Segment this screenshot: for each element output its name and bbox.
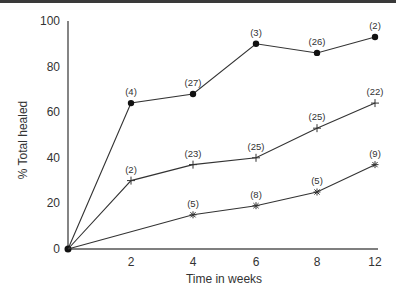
y-tick-label: 100 <box>40 14 60 28</box>
point-annotation: (22) <box>367 86 384 97</box>
y-tick-labels: 020406080100 <box>40 14 60 256</box>
point-annotation: (2) <box>125 164 137 175</box>
series-group: (4)(27)(3)(26)(2)(2)(23)(25)(25)(22)(5)(… <box>65 20 384 253</box>
series-line <box>68 165 375 249</box>
y-axis-label: % Total healed <box>16 101 30 180</box>
point-annotation: (26) <box>309 36 326 47</box>
point-annotation: (9) <box>369 148 381 159</box>
point-annotation: (25) <box>309 111 326 122</box>
line-chart: 020406080100 246812 % Total healed Time … <box>0 0 396 295</box>
y-tick-label: 40 <box>47 151 61 165</box>
plus-marker <box>189 161 197 169</box>
circle-marker <box>253 41 259 47</box>
plus-marker <box>371 99 379 107</box>
point-annotation: (27) <box>185 77 202 88</box>
x-tick-labels: 246812 <box>128 255 382 269</box>
point-annotation: (23) <box>185 148 202 159</box>
asterisk-marker <box>190 211 197 218</box>
y-tick-label: 60 <box>47 105 61 119</box>
circle-marker <box>190 91 196 97</box>
point-annotation: (4) <box>125 86 137 97</box>
x-tick-label: 4 <box>190 255 197 269</box>
series-circle: (4)(27)(3)(26)(2) <box>65 20 381 253</box>
series-plus: (2)(23)(25)(25)(22) <box>68 86 383 249</box>
y-tick-label: 20 <box>47 196 61 210</box>
x-tick-label: 12 <box>368 255 382 269</box>
plus-marker <box>252 154 260 162</box>
point-annotation: (25) <box>248 141 265 152</box>
point-annotation: (2) <box>369 20 381 31</box>
axes <box>68 21 378 249</box>
series-line <box>68 103 375 249</box>
x-axis-label: Time in weeks <box>186 272 262 286</box>
point-annotation: (8) <box>250 189 262 200</box>
point-annotation: (5) <box>311 175 323 186</box>
y-tick-label: 80 <box>47 60 61 74</box>
x-tick-label: 8 <box>314 255 321 269</box>
plus-marker <box>313 124 321 132</box>
series-line <box>68 37 375 249</box>
circle-marker <box>372 34 378 40</box>
x-tick-label: 6 <box>253 255 260 269</box>
asterisk-marker <box>253 202 260 209</box>
point-annotation: (3) <box>250 27 262 38</box>
circle-marker <box>128 100 134 106</box>
circle-marker <box>314 50 320 56</box>
point-annotation: (5) <box>187 198 199 209</box>
asterisk-marker <box>372 161 379 168</box>
x-tick-label: 2 <box>128 255 135 269</box>
asterisk-marker <box>314 189 321 196</box>
y-tick-label: 0 <box>53 242 60 256</box>
